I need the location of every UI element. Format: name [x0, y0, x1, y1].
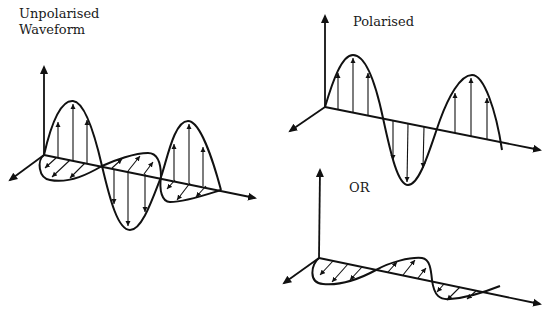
- axes: [290, 16, 540, 150]
- polarised-vertical-waveform: [290, 16, 540, 185]
- polarised-wave-curve: [325, 55, 502, 185]
- propagation-axis-arrow-icon: [44, 155, 255, 198]
- vector-arrows: [320, 260, 476, 300]
- vertical-axis-arrow-icon: [319, 170, 320, 258]
- depth-axis-arrow-icon: [290, 107, 325, 131]
- horizontal-wave-curve: [312, 258, 500, 299]
- unpolarised-waveform: [10, 67, 255, 230]
- polarisation-diagram: [0, 0, 548, 322]
- vector-arrows: [45, 104, 206, 226]
- polarised-horizontal-waveform: [284, 170, 540, 304]
